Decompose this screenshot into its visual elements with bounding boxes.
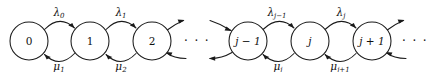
forward-edge-j-to-jp1	[325, 21, 356, 29]
state-node-j[interactable]: j	[291, 22, 329, 60]
rate-label-lambda-0: λ0	[52, 6, 65, 19]
state-node-0[interactable]: 0	[10, 22, 48, 60]
rate-label-lambda-j-minus-1: λj−1	[266, 6, 286, 19]
lambda-symbol: λ	[336, 6, 344, 18]
mu-subscript: 1	[60, 65, 64, 72]
stub-out-from-jp1	[387, 20, 405, 31]
arrowhead-icon	[209, 56, 215, 61]
forward-edge-jm1-to-j	[263, 21, 294, 29]
stub-out-from-jm1	[209, 53, 232, 61]
rate-label-mu-1: μ1	[53, 60, 64, 72]
mu-subscript: 2	[121, 65, 127, 72]
rate-label-mu-j: μj	[274, 60, 284, 72]
ellipsis-right: · · ·	[402, 34, 428, 48]
state-node-1[interactable]: 1	[71, 22, 109, 60]
rate-label-mu-2: μ2	[115, 60, 127, 72]
lambda-subscript: 0	[60, 11, 65, 19]
lambda-symbol: λ	[52, 6, 60, 18]
lambda-symbol: λ	[114, 6, 122, 18]
mu-subscript: j+1	[335, 65, 350, 72]
forward-edge-0-to-1	[45, 21, 75, 29]
state-node-label: j − 1	[233, 35, 260, 47]
state-node-label: 2	[149, 35, 156, 47]
lambda-symbol: λ	[266, 6, 274, 18]
lambda-subscript: j−1	[272, 11, 287, 19]
rate-label-lambda-1: λ1	[114, 6, 126, 19]
state-node-label: j + 1	[357, 35, 384, 47]
state-node-j-plus-1[interactable]: j + 1	[353, 22, 391, 60]
stub-in-to-jm1	[210, 21, 232, 32]
diagram-canvas: 0 1 2 j − 1 j j + 1 λ0 λ1 λj−1 λj μ1 μ2	[0, 0, 428, 72]
stub-out-from-2	[167, 20, 185, 31]
stub-in-to-2	[165, 52, 186, 59]
state-node-2[interactable]: 2	[133, 22, 171, 60]
forward-edge-1-to-2	[106, 21, 136, 29]
state-node-label: 0	[26, 35, 33, 47]
state-node-j-minus-1[interactable]: j − 1	[229, 22, 267, 60]
markov-chain-diagram: 0 1 2 j − 1 j j + 1 λ0 λ1 λj−1 λj μ1 μ2	[0, 0, 428, 72]
lambda-subscript: 1	[122, 11, 126, 19]
stub-in-to-jp1	[385, 52, 406, 59]
state-node-label: 1	[87, 35, 94, 47]
ellipsis-middle: · · ·	[184, 34, 210, 48]
rate-label-lambda-j: λj	[336, 6, 347, 19]
